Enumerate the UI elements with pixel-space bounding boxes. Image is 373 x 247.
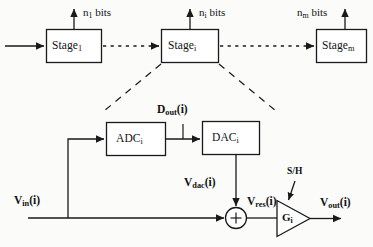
stage-i-label: Stagei (168, 40, 196, 53)
vdac-label: Vdac(i) (184, 177, 216, 190)
stage-1-bits-label: n1 bits (83, 7, 111, 20)
stage-boxes (47, 30, 367, 63)
sample-hold-arrow (289, 181, 296, 200)
stage-m-bits-label: nm bits (297, 7, 327, 20)
vres-label: Vres(i) (247, 196, 277, 209)
diagram-vector-layer (0, 0, 373, 247)
expansion-line-left (104, 64, 161, 111)
vout-label: Vout(i) (320, 197, 351, 210)
gain-label: Gi (282, 212, 293, 225)
expansion-dashed-lines (104, 64, 276, 111)
dac-label: DACi (212, 132, 239, 145)
dout-label: Dout(i) (157, 104, 188, 117)
expansion-line-right (219, 64, 276, 111)
stage-1-label: Stage1 (52, 40, 82, 53)
stage-m-label: Stagem (322, 40, 355, 53)
vin-label: Vin(i) (14, 195, 40, 208)
sample-hold-label: S/H (287, 167, 302, 177)
vin-to-adc-path (68, 139, 104, 218)
stage-i-bits-label: ni bits (199, 7, 225, 20)
figure-canvas: Stage1 Stagei Stagem n1 bits ni bits nm … (0, 0, 373, 247)
adc-label: ADCi (116, 133, 143, 146)
